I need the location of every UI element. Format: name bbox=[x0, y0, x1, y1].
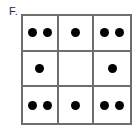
dot bbox=[71, 28, 80, 37]
dot bbox=[28, 101, 37, 110]
grid-cell-r3c3 bbox=[94, 87, 130, 123]
dot bbox=[35, 64, 44, 73]
dot bbox=[28, 28, 37, 37]
grid-cell-r2c1 bbox=[23, 52, 59, 88]
dot bbox=[115, 101, 124, 110]
dot bbox=[100, 101, 109, 110]
dot-pattern-grid bbox=[21, 14, 132, 125]
dot bbox=[43, 28, 52, 37]
dot bbox=[43, 101, 52, 110]
figure-label: F. bbox=[9, 5, 18, 17]
dot bbox=[100, 28, 109, 37]
grid-cell-r1c2 bbox=[59, 16, 95, 52]
dot bbox=[108, 64, 117, 73]
grid-cell-r2c2 bbox=[59, 52, 95, 88]
dot bbox=[115, 28, 124, 37]
grid-cell-r3c2 bbox=[59, 87, 95, 123]
grid-cell-r2c3 bbox=[94, 52, 130, 88]
dot bbox=[71, 101, 80, 110]
grid-cell-r3c1 bbox=[23, 87, 59, 123]
grid-cell-r1c1 bbox=[23, 16, 59, 52]
figure-container: F. bbox=[0, 0, 140, 132]
grid-cell-r1c3 bbox=[94, 16, 130, 52]
